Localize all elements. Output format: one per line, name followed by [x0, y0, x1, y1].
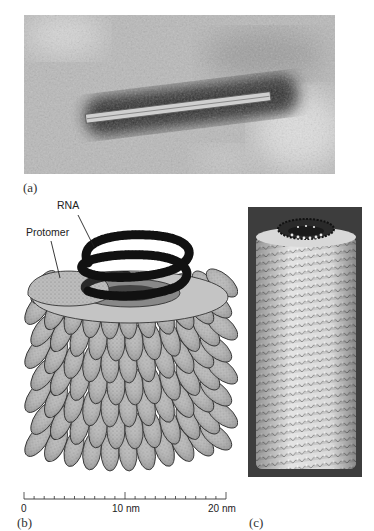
- panel-a-micrograph: [24, 15, 335, 174]
- panel-c-model: [248, 207, 362, 477]
- scale-tick-0: 0: [21, 503, 27, 514]
- helical-capsid-drawing: [18, 205, 238, 475]
- rna-leader-line: [78, 215, 94, 247]
- panel-c-label: (c): [249, 515, 263, 531]
- rna-label: RNA: [57, 199, 79, 211]
- protomer-label: Protomer: [26, 226, 69, 238]
- micrograph-image: [24, 15, 335, 174]
- panel-b-label: (b): [17, 515, 32, 531]
- scale-tick-10nm: 10 nm: [112, 503, 140, 514]
- scale-tick-20nm: 20 nm: [208, 503, 236, 514]
- capsid-model-image: [248, 207, 362, 477]
- panel-b-schematic: [18, 205, 238, 475]
- panel-a-label: (a): [23, 180, 37, 196]
- scale-bar: [22, 490, 232, 502]
